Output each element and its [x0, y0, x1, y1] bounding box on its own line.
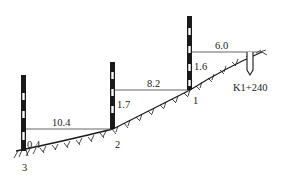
distance-label-8-2: 8.2	[147, 78, 160, 89]
point-label-3: 3	[22, 162, 27, 173]
ranging-pole-3	[21, 75, 26, 151]
ranging-pole-1	[187, 16, 192, 90]
stake-marker	[247, 52, 253, 75]
ranging-pole-2	[110, 62, 115, 129]
ground-hatching	[14, 50, 267, 158]
distance-label-6-0: 6.0	[215, 40, 228, 51]
height-label-pole-1: 1.6	[194, 61, 207, 72]
distance-label-10-4: 10.4	[52, 117, 71, 128]
leveling-diagram: 6.0 8.2 10.4 1.6 1.7 0.4 1 2 3 K1+240	[0, 0, 284, 185]
height-label-pole-2: 1.7	[117, 99, 130, 110]
point-label-1: 1	[193, 95, 198, 106]
ground-profile	[14, 50, 267, 158]
stake-label: K1+240	[233, 82, 268, 93]
point-label-2: 2	[115, 139, 120, 150]
height-label-pole-3: 0.4	[27, 139, 41, 150]
